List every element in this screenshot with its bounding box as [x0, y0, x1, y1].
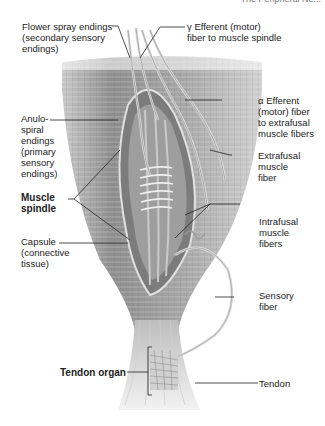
label-flower-spray-endings: Flower spray endings (secondary sensory … — [22, 21, 112, 54]
label-gamma-efferent: γ Efferent (motor) fiber to muscle spind… — [187, 21, 282, 43]
label-muscle-spindle: Muscle spindle — [21, 192, 56, 214]
label-alpha-efferent: α Efferent (motor) fiber to extrafusal m… — [258, 95, 314, 139]
label-tendon-organ: Tendon organ — [60, 367, 126, 378]
label-sensory-fiber: Sensory fiber — [259, 290, 294, 312]
label-capsule: Capsule (connective tissue) — [21, 236, 70, 269]
label-extrafusal-muscle-fiber: Extrafusal muscle fiber — [258, 150, 300, 183]
label-intrafusal-muscle-fibers: Intrafusal muscle fibers — [259, 216, 298, 249]
label-tendon: Tendon — [259, 378, 290, 389]
muscle-spindle-diagram: The Peripheral Ne... — [0, 0, 325, 426]
label-anulospiral-endings: Anulo- spiral endings (primary sensory e… — [21, 113, 57, 179]
tendon-organ-mesh — [150, 350, 178, 390]
